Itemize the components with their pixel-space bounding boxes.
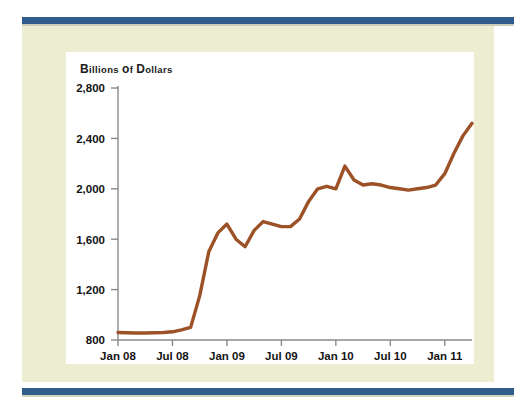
chart-page: Billions of Dollars 8001,2001,6002,0002,… [0,0,514,417]
x-tick-label: Jan 09 [209,350,245,362]
data-series-line [118,123,472,333]
y-tick-labels: 8001,2001,6002,0002,4002,800 [76,82,105,346]
x-tick-label: Jan 08 [100,350,136,362]
y-tick-label: 2,800 [76,82,105,94]
bottom-rule-line [22,388,514,395]
bottom-rule-shadow [22,395,514,397]
x-tick-label: Jan 11 [427,350,463,362]
x-tick-label: Jul 10 [374,350,407,362]
x-tick-label: Jan 10 [318,350,354,362]
y-tick-label: 2,400 [76,133,105,145]
line-chart-svg: 8001,2001,6002,0002,4002,800 Jan 08Jul 0… [0,0,514,417]
x-tick-label: Jul 09 [265,350,298,362]
y-tick-label: 1,200 [76,284,105,296]
chart-axes [111,86,472,346]
x-tick-labels: Jan 08Jul 08Jan 09Jul 09Jan 10Jul 10Jan … [100,350,463,362]
y-tick-label: 2,000 [76,183,105,195]
y-tick-label: 1,600 [76,234,105,246]
x-tick-label: Jul 08 [156,350,189,362]
y-tick-label: 800 [86,334,105,346]
